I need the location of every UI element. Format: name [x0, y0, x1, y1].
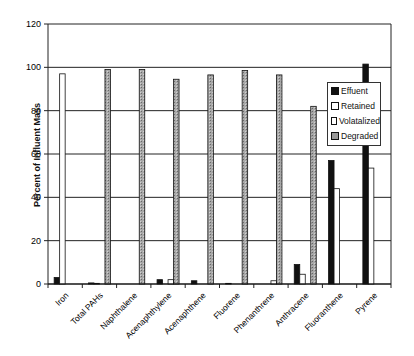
legend-item-effuent: Effuent: [328, 83, 380, 98]
bar: [174, 79, 180, 284]
bar: [54, 278, 60, 285]
legend-item-retained: Retained: [328, 98, 380, 113]
chart-svg: 020406080100120IronTotal PAHsNaphthalene…: [0, 0, 414, 356]
legend-label: Degraded: [341, 131, 378, 141]
legend-item-degraded: Degraded: [328, 128, 380, 143]
legend-swatch: [331, 87, 339, 95]
bar: [368, 168, 374, 284]
legend: Effuent Retained Volatalized Degraded: [327, 82, 381, 146]
legend-item-volatalized: Volatalized: [328, 113, 380, 128]
bar: [208, 75, 214, 284]
legend-label: Effuent: [341, 86, 368, 96]
y-tick-label: 0: [36, 279, 41, 289]
bar: [157, 280, 163, 284]
legend-swatch: [331, 102, 339, 110]
y-tick-label: 120: [26, 19, 41, 29]
bar: [242, 71, 248, 284]
y-axis-title: Percent of Influent Mass: [32, 60, 42, 250]
legend-label: Retained: [341, 101, 375, 111]
bar: [329, 161, 335, 285]
x-tick-label: Total PAHs: [69, 290, 105, 326]
legend-label: Volatalized: [339, 116, 380, 126]
bar: [334, 189, 340, 284]
x-tick-label: Fluorene: [211, 290, 242, 321]
bar: [60, 74, 66, 284]
bar: [300, 274, 306, 284]
bar: [139, 70, 145, 285]
bar: [294, 265, 300, 285]
legend-swatch: [331, 117, 337, 125]
x-tick-label: Pyrene: [353, 290, 379, 316]
x-tick-label: Iron: [53, 290, 71, 308]
bar: [276, 75, 282, 284]
bar: [168, 280, 174, 284]
bar: [105, 70, 111, 285]
legend-swatch: [331, 132, 339, 140]
bar: [311, 106, 317, 284]
